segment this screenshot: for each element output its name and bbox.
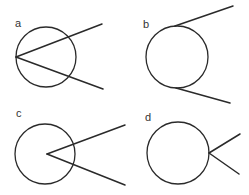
- ray-a-upper: [16, 24, 102, 57]
- panel-label-a: a: [15, 17, 22, 29]
- circle-b: [146, 26, 208, 88]
- circle-d: [147, 122, 209, 184]
- angle-circle-diagram: a b c d: [0, 0, 249, 195]
- tangent-b-upper: [175, 6, 233, 26]
- tangent-b-lower: [176, 88, 230, 103]
- panel-label-d: d: [145, 111, 151, 123]
- ray-c-upper: [47, 125, 125, 154]
- panel-label-c: c: [16, 107, 22, 119]
- circle-a: [16, 27, 76, 87]
- circle-c: [15, 124, 75, 184]
- panel-c: c: [15, 107, 125, 185]
- panel-b: b: [143, 6, 233, 103]
- ray-d-upper: [209, 134, 240, 153]
- ray-d-lower: [209, 153, 239, 174]
- panel-d: d: [145, 111, 240, 184]
- panel-a: a: [15, 17, 103, 89]
- panel-label-b: b: [143, 18, 149, 30]
